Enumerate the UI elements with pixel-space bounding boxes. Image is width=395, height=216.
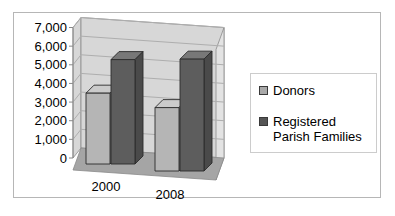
legend-label-donors: Donors — [273, 83, 315, 99]
legend: Donors Registered Parish Families — [250, 73, 377, 153]
bar-registered-parish-families-2008 — [180, 59, 204, 171]
y-axis-label: 3,000 — [34, 95, 67, 110]
legend-label-registered-parish-families: Registered Parish Families — [273, 114, 372, 145]
y-axis-label: 2,000 — [34, 113, 67, 128]
legend-item-donors: Donors — [259, 83, 372, 99]
y-axis-label: 6,000 — [34, 39, 67, 54]
bar-donors-2000 — [86, 93, 110, 164]
y-axis-label: 0 — [60, 151, 67, 166]
x-axis-label: 2000 — [92, 179, 121, 194]
legend-swatch-registered-parish-families-icon — [259, 117, 268, 126]
y-axis-label: 5,000 — [34, 57, 67, 72]
legend-swatch-donors-icon — [259, 86, 268, 95]
y-axis-label: 4,000 — [34, 76, 67, 91]
left-wall — [73, 18, 81, 159]
chart-image: 01,0002,0003,0004,0005,0006,0007,0002000… — [0, 0, 395, 216]
y-axis-label: 1,000 — [34, 132, 67, 147]
x-axis-label: 2008 — [156, 187, 185, 202]
bar-registered-parish-families-2000 — [111, 60, 135, 164]
y-axis-label: 7,000 — [34, 20, 67, 35]
bar-donors-2008 — [155, 108, 179, 171]
bar-side-registered-parish-families-2000 — [135, 52, 143, 164]
legend-item-registered-parish-families: Registered Parish Families — [259, 114, 372, 145]
bar-side-registered-parish-families-2008 — [204, 51, 212, 171]
